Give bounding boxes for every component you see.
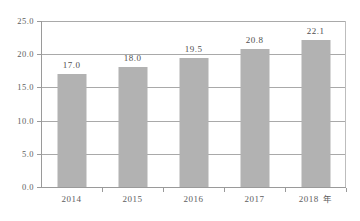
bar-slot: 17.0 — [41, 21, 102, 187]
plot-area: 0.05.010.015.020.025.0 17.018.019.520.82… — [41, 21, 346, 187]
x-axis-labels: 20142015201620172018年 — [41, 195, 346, 209]
bar — [118, 67, 147, 187]
x-axis-tick-label: 2014 — [62, 195, 82, 204]
bar-slot: 20.8 — [224, 21, 285, 187]
y-axis-line — [41, 21, 42, 188]
bar-value-label: 17.0 — [63, 61, 81, 70]
y-axis-tick-label: 5.0 — [22, 150, 34, 159]
x-axis-tick — [285, 188, 286, 192]
y-axis-tick-label: 20.0 — [17, 50, 34, 59]
x-axis-tick — [346, 188, 347, 192]
x-axis-tick-label: 2015 — [123, 195, 143, 204]
bar-chart: 0.05.010.015.020.025.0 17.018.019.520.82… — [0, 0, 360, 221]
bar — [179, 58, 208, 187]
y-axis-tick-label: 25.0 — [17, 17, 34, 26]
y-axis-tick-label: 0.0 — [22, 183, 34, 192]
bar-slot: 18.0 — [102, 21, 163, 187]
x-axis-tick-label: 2016 — [184, 195, 204, 204]
bar-slot: 22.1 — [285, 21, 346, 187]
plot-right-edge — [345, 21, 346, 188]
x-axis-unit-label: 年 — [323, 194, 333, 204]
x-axis-line — [41, 187, 346, 188]
bar-value-label: 18.0 — [124, 54, 142, 63]
x-axis-tick — [102, 188, 103, 192]
bar — [301, 40, 330, 187]
bar-value-label: 20.8 — [246, 36, 264, 45]
bar-value-label: 22.1 — [307, 27, 325, 36]
x-axis-tick — [224, 188, 225, 192]
y-axis-tick-label: 10.0 — [17, 116, 34, 125]
bar-slot: 19.5 — [163, 21, 224, 187]
bar — [57, 74, 86, 187]
y-axis-tick-label: 15.0 — [17, 83, 34, 92]
bars-layer: 17.018.019.520.822.1 — [41, 21, 346, 187]
x-axis-tick-label: 2017 — [245, 195, 265, 204]
x-axis-tick — [163, 188, 164, 192]
bar-value-label: 19.5 — [185, 45, 203, 54]
x-axis-tick-label: 2018年 — [299, 195, 333, 204]
bar — [240, 49, 269, 187]
